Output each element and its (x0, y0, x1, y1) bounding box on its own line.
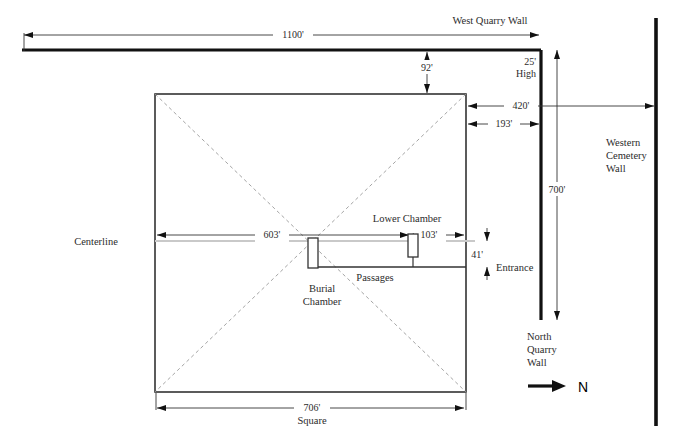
square-label: Square (297, 415, 326, 426)
north-label: N (578, 379, 588, 395)
north-quarry-wall-line-2: Quarry (527, 344, 557, 355)
dimension-1100: 1100' (24, 28, 539, 51)
burial-chamber-line-1: Burial (309, 283, 335, 294)
dimension-1100-label: 1100' (282, 29, 304, 40)
dimension-193-label: 193' (496, 118, 513, 129)
dimension-193: 193' (468, 117, 539, 131)
dimension-603-label: 603' (264, 229, 281, 240)
dimension-92: 92' (410, 52, 444, 93)
western-cemetery-wall-label: Western Cemetery Wall (606, 137, 648, 174)
burial-chamber-line-2: Chamber (303, 296, 342, 307)
entrance-label: Entrance (496, 262, 534, 273)
passages-label: Passages (356, 272, 393, 283)
dimension-92-label: 92' (421, 62, 433, 73)
dimension-700: 700' (545, 50, 571, 320)
wall-height-high-label: High (516, 68, 536, 79)
dimension-41: 41' (471, 228, 490, 280)
dimension-103-label: 103' (421, 229, 438, 240)
lower-chamber-rect (408, 234, 418, 257)
western-cemetery-wall-line-1: Western (606, 137, 641, 148)
north-arrow (528, 380, 566, 392)
centerline-label: Centerline (74, 236, 118, 247)
dimension-706-label: 706' (304, 402, 321, 413)
burial-chamber-rect (308, 238, 318, 268)
pyramid-plan-diagram: 1100' West Quarry Wall 25' High 92' 420' (0, 0, 674, 444)
west-quarry-wall-label: West Quarry Wall (452, 15, 527, 26)
dimension-41-label: 41' (471, 249, 483, 260)
north-quarry-wall-line-1: North (527, 331, 552, 342)
lower-chamber-label: Lower Chamber (373, 213, 442, 224)
diagram-page: 1100' West Quarry Wall 25' High 92' 420' (0, 0, 674, 444)
north-quarry-wall-line-3: Wall (527, 357, 547, 368)
dimension-420: 420' (468, 99, 654, 113)
wall-height-value-label: 25' (524, 56, 536, 67)
western-cemetery-wall-line-2: Cemetery (606, 150, 648, 161)
north-quarry-wall-label: North Quarry Wall (527, 331, 557, 368)
western-cemetery-wall-line-3: Wall (606, 163, 626, 174)
burial-chamber-label: Burial Chamber (303, 283, 342, 307)
dimension-700-label: 700' (549, 184, 566, 195)
dimension-420-label: 420' (513, 100, 530, 111)
dimension-706: 706' (156, 393, 466, 415)
